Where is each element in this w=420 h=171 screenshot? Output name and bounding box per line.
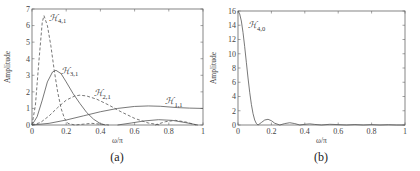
- y-tick-label: 16: [228, 7, 236, 16]
- x-tick-label: 1: [201, 127, 205, 136]
- y-axis-label: Amplitude: [3, 50, 12, 83]
- series-h1-1: [32, 106, 203, 125]
- y-tick-label: 5: [26, 38, 30, 47]
- x-tick-label: 0: [236, 127, 240, 136]
- y-tick-label: 0: [232, 121, 236, 130]
- curve-label: ℋ2,1: [94, 88, 111, 100]
- x-tick-label: 0.8: [164, 127, 174, 136]
- x-axis-label: ω/π: [316, 136, 327, 145]
- x-tick-label: 0.6: [130, 127, 140, 136]
- y-axis-label: Amplitude: [209, 51, 218, 84]
- x-axis-label: ω/π: [112, 136, 123, 145]
- y-tick-label: 6: [232, 78, 236, 87]
- x-tick-label: 0.2: [266, 127, 276, 136]
- chart-panel-a: 00.20.40.60.8101234567ω/πAmplitudeℋ4,1ℋ3…: [3, 5, 205, 164]
- y-tick-label: 2: [26, 88, 30, 97]
- y-tick-label: 4: [232, 92, 236, 101]
- y-tick-label: 12: [228, 35, 236, 44]
- x-tick-label: 0.4: [300, 127, 310, 136]
- y-tick-label: 2: [232, 107, 236, 116]
- y-tick-label: 4: [26, 55, 30, 64]
- x-tick-label: 0.6: [333, 127, 343, 136]
- x-tick-label: 1: [403, 127, 407, 136]
- curve-label: ℋ3,1: [61, 66, 78, 78]
- x-tick-label: 0: [30, 127, 34, 136]
- y-tick-label: 10: [228, 50, 236, 59]
- figure: 00.20.40.60.8101234567ω/πAmplitudeℋ4,1ℋ3…: [0, 0, 420, 171]
- x-tick-label: 0.4: [95, 127, 105, 136]
- panel-caption: (b): [314, 150, 328, 164]
- curve-label: ℋ4,0: [248, 20, 265, 32]
- y-tick-label: 3: [26, 71, 30, 80]
- y-tick-label: 8: [232, 64, 236, 73]
- y-tick-label: 0: [26, 121, 30, 130]
- x-tick-label: 0.2: [61, 127, 71, 136]
- y-tick-label: 6: [26, 21, 30, 30]
- x-tick-label: 0.8: [367, 127, 377, 136]
- panel-caption: (a): [110, 150, 123, 164]
- curve-label: ℋ4,1: [49, 13, 66, 25]
- y-tick-label: 1: [26, 104, 30, 113]
- chart-panel-b: 00.20.40.60.810246810121416ω/πAmplitudeℋ…: [209, 7, 407, 164]
- curve-label: ℋ1,1: [165, 96, 182, 108]
- y-tick-label: 7: [26, 5, 30, 14]
- y-tick-label: 14: [228, 21, 236, 30]
